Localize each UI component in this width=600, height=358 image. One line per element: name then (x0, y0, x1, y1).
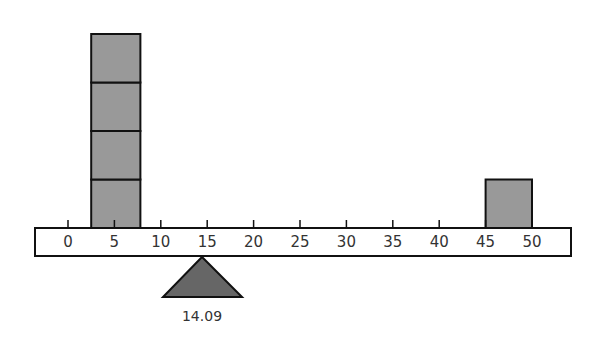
tick-label: 45 (476, 235, 495, 250)
tick-label: 0 (63, 235, 73, 250)
fulcrum-triangle (163, 257, 242, 297)
weights-group (91, 34, 532, 228)
tick-label: 20 (244, 235, 263, 250)
balance-diagram: 05101520253035404550 14.09 (0, 0, 600, 358)
left-stack-block[interactable] (91, 34, 140, 83)
tick-label: 5 (110, 235, 120, 250)
left-stack-block[interactable] (91, 131, 140, 180)
tick-label: 25 (290, 235, 309, 250)
fulcrum-position-label: 14.09 (182, 309, 222, 323)
left-stack-block[interactable] (91, 180, 140, 229)
tick-label: 35 (383, 235, 402, 250)
tick-label: 40 (430, 235, 449, 250)
left-stack-block[interactable] (91, 83, 140, 132)
tick-label: 50 (522, 235, 541, 250)
tick-label: 10 (151, 235, 170, 250)
tick-label: 30 (337, 235, 356, 250)
right-block-block[interactable] (486, 180, 532, 229)
tick-label: 15 (198, 235, 217, 250)
balance-svg (0, 0, 600, 358)
